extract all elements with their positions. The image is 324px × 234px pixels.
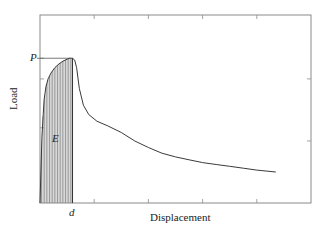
plot-frame	[40, 15, 311, 203]
displacement-d-label: d	[69, 207, 75, 218]
load-displacement-curve	[40, 58, 276, 203]
peak-load-label: P	[30, 52, 37, 63]
load-displacement-chart	[0, 0, 324, 234]
x-axis-label: Displacement	[150, 212, 210, 223]
energy-label: E	[52, 133, 59, 144]
axis-ticks	[40, 15, 311, 203]
energy-hatched-area	[42, 58, 72, 203]
y-axis-label: Load	[8, 87, 19, 110]
